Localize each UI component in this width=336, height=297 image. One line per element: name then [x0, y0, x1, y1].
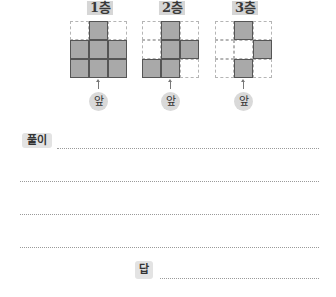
empty-cell — [180, 59, 199, 78]
solution-badge: 풀이 — [22, 133, 52, 148]
layer-2-grid — [142, 21, 199, 78]
empty-cell — [253, 21, 272, 40]
empty-cell — [215, 21, 234, 40]
empty-cell — [142, 40, 161, 59]
empty-cell — [215, 59, 234, 78]
empty-cell — [108, 21, 127, 40]
solution-line-2[interactable] — [20, 181, 319, 182]
cube-cell — [70, 40, 89, 59]
empty-cell — [70, 21, 89, 40]
empty-cell — [180, 21, 199, 40]
empty-cell — [142, 21, 161, 40]
cube-cell — [108, 40, 127, 59]
cube-cell — [89, 21, 108, 40]
cube-cell — [234, 21, 253, 40]
front-arrow-icon — [170, 82, 171, 89]
solution-line-4[interactable] — [20, 247, 319, 248]
layer-2-label: 2층 — [159, 1, 185, 15]
layer-1-label: 1층 — [87, 1, 113, 15]
layer-3-label: 3층 — [232, 1, 258, 15]
front-label: 앞 — [161, 92, 180, 111]
cube-cell — [161, 21, 180, 40]
cube-cell — [161, 40, 180, 59]
cube-cell — [142, 59, 161, 78]
cube-cell — [70, 59, 89, 78]
front-arrow-icon — [243, 82, 244, 89]
answer-line[interactable] — [160, 278, 319, 279]
cube-cell — [89, 59, 108, 78]
front-arrow-icon — [98, 82, 99, 89]
answer-badge: 답 — [135, 261, 153, 279]
front-label: 앞 — [234, 92, 253, 111]
empty-cell — [215, 40, 234, 59]
cube-cell — [180, 40, 199, 59]
layer-1-grid — [70, 21, 127, 78]
cube-cell — [89, 40, 108, 59]
front-label: 앞 — [89, 92, 108, 111]
cube-cell — [234, 59, 253, 78]
empty-cell — [234, 40, 253, 59]
layer-3-grid — [215, 21, 272, 78]
empty-cell — [253, 59, 272, 78]
solution-line-3[interactable] — [20, 214, 319, 215]
cube-cell — [253, 40, 272, 59]
cube-cell — [161, 59, 180, 78]
solution-line-1[interactable] — [57, 148, 319, 149]
cube-cell — [108, 59, 127, 78]
